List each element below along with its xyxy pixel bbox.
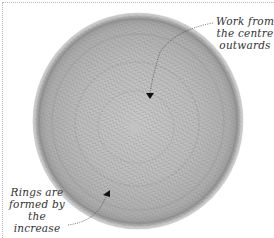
annotation-centre-line-3: outwards <box>214 39 274 51</box>
annotation-rings-line-2: formed by the <box>6 198 68 222</box>
annotation-centre: Work from the centre outwards <box>214 15 274 51</box>
annotation-rings-line-1: Rings are <box>6 186 68 198</box>
annotation-rings: Rings are formed by the increase rows <box>6 186 68 238</box>
annotation-centre-line-2: the centre <box>214 27 274 39</box>
annotation-rings-line-3: increase rows <box>6 222 68 238</box>
annotation-centre-line-1: Work from <box>214 15 274 27</box>
